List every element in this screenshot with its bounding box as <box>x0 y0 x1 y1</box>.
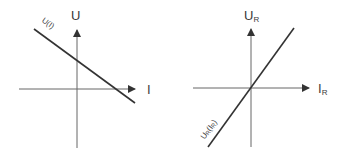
u-i-curve <box>34 29 135 103</box>
y-axis-label: U <box>71 9 80 22</box>
y-axis-label: UR <box>244 9 259 24</box>
y-axis-label-sub: R <box>253 15 259 24</box>
source-plot <box>0 0 173 159</box>
x-axis-label: IR <box>318 82 327 97</box>
diagram-resistor-characteristic: UR IR UR(IR) <box>173 0 346 159</box>
x-axis-label: I <box>147 83 151 96</box>
y-axis-label-main: U <box>244 8 253 23</box>
diagram-source-characteristic: U I U(I) <box>0 0 173 159</box>
x-axis-label-sub: R <box>322 88 328 97</box>
